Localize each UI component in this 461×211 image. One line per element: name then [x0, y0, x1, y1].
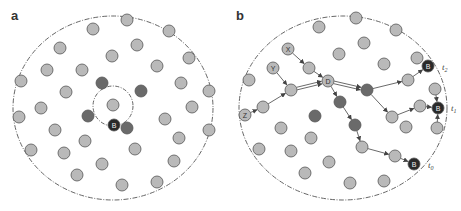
edge-arrow	[398, 108, 414, 114]
edge-arrow	[426, 107, 432, 108]
edge-arrow	[250, 110, 257, 113]
node-light	[60, 86, 72, 98]
node-light	[389, 150, 401, 162]
node-light	[129, 143, 141, 155]
node-light	[79, 135, 91, 147]
node-light	[344, 177, 356, 189]
node-light	[183, 52, 195, 64]
node-light	[96, 158, 108, 170]
node-label: D	[325, 78, 330, 85]
node-label: B	[112, 122, 117, 129]
node-light	[400, 121, 412, 133]
node-dark	[82, 110, 94, 122]
node-label: B	[426, 63, 431, 70]
node-light	[378, 58, 390, 70]
edge-arrow	[268, 93, 285, 104]
node-label: B	[412, 161, 417, 168]
node-light	[333, 48, 345, 60]
figure-canvas: aB bXYZDBBBt2t1t0	[0, 0, 461, 211]
node-light	[186, 101, 198, 113]
edge-arrow	[436, 95, 437, 102]
node-dark	[121, 122, 133, 134]
edge-arrow	[368, 149, 389, 155]
node-light	[414, 100, 426, 112]
panel-label: b	[236, 8, 244, 23]
node-dark	[361, 84, 373, 96]
node-light	[159, 113, 171, 125]
node-light	[323, 156, 335, 168]
node-light	[87, 23, 99, 35]
node-light	[175, 77, 187, 89]
node-light	[76, 64, 88, 76]
node-light	[253, 143, 265, 155]
node-light	[116, 179, 128, 191]
node-light	[15, 75, 27, 87]
node-light	[358, 37, 370, 49]
node-light	[303, 62, 315, 74]
node-light	[243, 74, 255, 86]
node-label: Y	[271, 65, 276, 72]
edge-arrow	[292, 53, 304, 64]
edge-arrow	[334, 81, 361, 87]
node-light	[203, 124, 215, 136]
time-label: t0	[428, 160, 434, 171]
edge-arrow	[331, 86, 337, 96]
node-light	[163, 25, 175, 37]
node-label: X	[286, 46, 291, 53]
node-light	[402, 74, 414, 86]
edge-arrow	[297, 81, 322, 87]
edge-arrow	[314, 71, 323, 77]
edge-arrow	[334, 84, 361, 90]
node-light	[173, 132, 185, 144]
edge-arrow	[357, 131, 360, 141]
time-label: t1	[451, 103, 457, 114]
node-light	[151, 176, 163, 188]
node-light	[257, 101, 269, 113]
node-dark	[135, 85, 147, 97]
node-light	[350, 12, 362, 24]
node-light	[203, 85, 215, 97]
node-light	[41, 64, 53, 76]
edge-arrow	[401, 158, 408, 161]
node-label: Z	[243, 112, 248, 119]
node-light	[285, 84, 297, 96]
node-light	[313, 21, 325, 33]
node-light	[356, 141, 368, 153]
node-light	[411, 52, 423, 64]
node-light	[299, 167, 311, 179]
node-light	[305, 132, 317, 144]
node-light	[35, 102, 47, 114]
panel-b: bXYZDBBBt2t1t0	[236, 8, 457, 200]
node-dark	[96, 77, 108, 89]
node-light	[54, 42, 66, 54]
node-light	[25, 144, 37, 156]
node-light	[131, 39, 143, 51]
node-light	[106, 50, 118, 62]
edge-arrow	[277, 73, 287, 85]
node-light	[151, 60, 163, 72]
node-dark	[349, 119, 361, 131]
panel-a: aB	[11, 8, 215, 200]
node-light	[71, 169, 83, 181]
node-dark	[309, 110, 321, 122]
edge-arrow	[297, 84, 322, 90]
node-light	[285, 145, 297, 157]
node-light	[49, 124, 61, 136]
node-light	[168, 155, 180, 167]
node-label: B	[436, 105, 441, 112]
node-light	[13, 111, 25, 123]
panel-label: a	[11, 8, 19, 23]
node-light	[107, 99, 119, 111]
node-light	[429, 83, 441, 95]
edge-arrow	[371, 94, 388, 112]
edge-arrow	[373, 82, 402, 89]
node-light	[58, 147, 70, 159]
node-light	[121, 14, 133, 26]
time-label: t2	[442, 62, 448, 73]
node-dark	[334, 96, 346, 108]
node-light	[386, 111, 398, 123]
node-light	[390, 24, 402, 36]
node-light	[378, 175, 390, 187]
edge-arrow	[343, 107, 351, 120]
edge-arrow	[413, 70, 423, 77]
